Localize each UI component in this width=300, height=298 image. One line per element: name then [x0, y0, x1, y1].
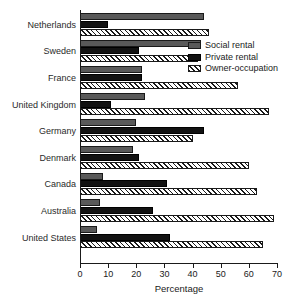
x-tick-label: 30: [152, 269, 176, 279]
legend-item-owner-occupation: Owner-occupation: [188, 63, 278, 75]
bar: [80, 199, 100, 206]
bar: [80, 226, 97, 233]
legend: Social rental Private rental Owner-occup…: [188, 40, 278, 75]
category-label: United States: [0, 233, 76, 243]
bar: [80, 13, 204, 20]
x-tick-label: 60: [237, 269, 261, 279]
category-label: Netherlands: [0, 20, 76, 30]
bar: [80, 173, 103, 180]
bar: [80, 162, 249, 169]
category-label: Canada: [0, 179, 76, 189]
bar: [80, 101, 111, 108]
bar: [80, 146, 133, 153]
bar: [80, 119, 136, 126]
x-tick: [108, 264, 109, 268]
x-tick-label: 10: [96, 269, 120, 279]
legend-label-social-rental: Social rental: [205, 40, 255, 52]
x-tick: [80, 264, 81, 268]
legend-swatch-private-rental-icon: [188, 54, 201, 61]
x-tick-label: 40: [181, 269, 205, 279]
x-tick: [136, 264, 137, 268]
x-tick-label: 0: [68, 269, 92, 279]
legend-item-social-rental: Social rental: [188, 40, 278, 52]
bar: [80, 55, 198, 62]
bar: [80, 47, 139, 54]
category-label: Sweden: [0, 46, 76, 56]
bar: [80, 180, 167, 187]
bar: [80, 66, 142, 73]
bar: [80, 154, 139, 161]
bar: [80, 188, 257, 195]
bar: [80, 207, 153, 214]
bar: [80, 93, 145, 100]
legend-label-owner-occupation: Owner-occupation: [205, 63, 278, 75]
bar: [80, 135, 193, 142]
category-label: Germany: [0, 126, 76, 136]
category-label: Australia: [0, 206, 76, 216]
bar: [80, 108, 269, 115]
x-tick-label: 70: [265, 269, 289, 279]
legend-swatch-social-rental-icon: [188, 42, 201, 49]
bar: [80, 21, 108, 28]
bar: [80, 234, 170, 241]
x-tick: [249, 264, 250, 268]
x-axis-title: Percentage: [80, 283, 278, 294]
bar: [80, 215, 274, 222]
x-tick-label: 50: [209, 269, 233, 279]
category-label: France: [0, 73, 76, 83]
bar: [80, 241, 263, 248]
y-axis-line: [80, 10, 81, 263]
category-label: United Kingdom: [0, 100, 76, 110]
x-tick-label: 20: [124, 269, 148, 279]
x-tick: [221, 264, 222, 268]
x-tick: [193, 264, 194, 268]
legend-item-private-rental: Private rental: [188, 52, 278, 64]
bar: [80, 29, 209, 36]
bar: [80, 40, 201, 47]
x-tick: [277, 264, 278, 268]
x-tick: [164, 264, 165, 268]
bar: [80, 127, 204, 134]
legend-swatch-owner-occupation-icon: [188, 65, 201, 72]
bar: [80, 74, 142, 81]
bar: [80, 82, 238, 89]
bar-chart: NetherlandsSwedenFranceUnited KingdomGer…: [0, 0, 300, 298]
category-label: Denmark: [0, 153, 76, 163]
legend-label-private-rental: Private rental: [205, 52, 258, 64]
